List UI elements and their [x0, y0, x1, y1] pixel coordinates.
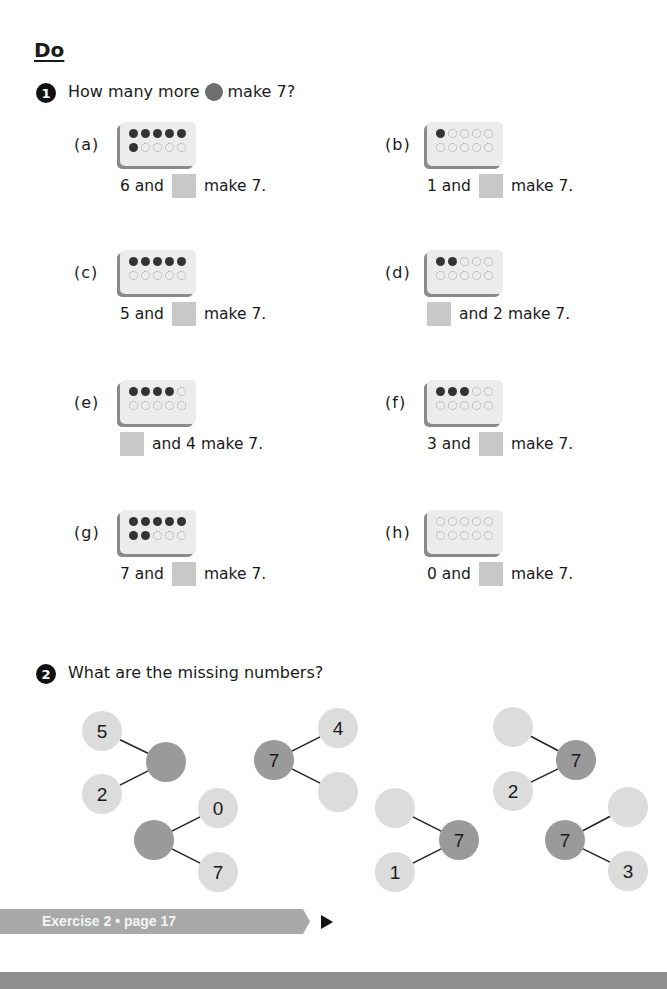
bond-part-circle-value: 0 [213, 798, 224, 819]
bond-part-circle[interactable] [608, 787, 648, 827]
bond-whole-circle-value: 7 [454, 830, 465, 851]
bond-part-circle-value: 4 [333, 718, 344, 739]
bond-whole-circle[interactable] [146, 742, 186, 782]
bond-connector-line [120, 771, 148, 785]
bond-part-circle-value: 5 [97, 721, 108, 742]
number-bond: 07 [134, 788, 238, 892]
play-arrow-icon [321, 915, 333, 929]
bond-connector-line [120, 740, 148, 754]
bond-part-circle[interactable] [318, 772, 358, 812]
bond-connector-line [413, 817, 441, 831]
bond-connector-line [583, 849, 610, 862]
bond-whole-circle-value: 7 [269, 750, 280, 771]
bond-part-circle-value: 2 [508, 781, 519, 802]
number-bond: 72 [493, 707, 596, 811]
bond-connector-line [292, 769, 320, 783]
bond-connector-line [172, 817, 200, 831]
bond-whole-circle[interactable] [134, 820, 174, 860]
bond-connector-line [531, 769, 558, 782]
bond-whole-circle-value: 7 [571, 750, 582, 771]
bond-connector-line [583, 816, 611, 830]
bond-part-circle-value: 7 [213, 862, 224, 883]
bond-part-circle-value: 3 [623, 861, 634, 882]
number-bond-diagrams: 520774717273 [0, 0, 667, 989]
footer-exercise-label: Exercise 2 • page 17 [42, 913, 176, 929]
number-bond: 74 [254, 708, 358, 812]
number-bond: 52 [82, 711, 186, 814]
bond-connector-line [531, 736, 559, 750]
bond-connector-line [292, 737, 320, 751]
bottom-band [0, 972, 667, 989]
bond-part-circle-value: 2 [97, 784, 108, 805]
bond-part-circle[interactable] [493, 707, 533, 747]
bond-connector-line [172, 849, 200, 863]
bond-whole-circle-value: 7 [560, 830, 571, 851]
bond-part-circle-value: 1 [390, 862, 401, 883]
bond-connector-line [413, 849, 441, 863]
bond-part-circle[interactable] [375, 788, 415, 828]
number-bond: 73 [545, 787, 648, 891]
number-bond: 71 [375, 788, 479, 892]
